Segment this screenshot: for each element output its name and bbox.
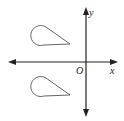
y-axis-bottom-arrow-icon (83, 109, 89, 117)
lower-teardrop-shape (31, 77, 70, 97)
upper-teardrop-shape (31, 26, 70, 46)
origin-label: O (76, 65, 83, 76)
x-axis-left-arrow-icon (8, 59, 16, 65)
y-axis-label: y (88, 7, 94, 18)
x-axis-label: x (109, 65, 115, 76)
x-axis (8, 59, 118, 65)
coordinate-diagram: y x O (0, 0, 124, 121)
